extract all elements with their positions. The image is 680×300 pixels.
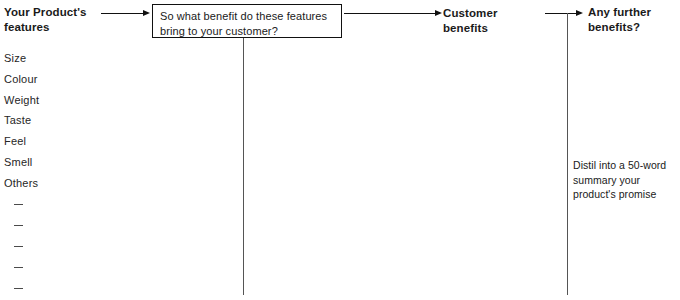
worksheet-diagram: Your Product's features Size Colour Weig… — [0, 0, 680, 300]
list-item: Others — [4, 173, 124, 194]
arrow-right-icon — [143, 10, 150, 16]
blank-entry-line[interactable] — [4, 215, 124, 236]
list-item: Size — [4, 48, 124, 69]
blank-entry-line[interactable] — [4, 257, 124, 278]
connector-question-to-customer-benefits — [344, 13, 436, 14]
list-item: Colour — [4, 69, 124, 90]
list-item: Feel — [4, 131, 124, 152]
dash-icon — [14, 204, 23, 205]
blank-entry-line[interactable] — [4, 194, 124, 215]
question-box-text: So what benefit do these features bring … — [160, 9, 336, 38]
list-item: Weight — [4, 90, 124, 111]
arrow-right-icon — [576, 10, 583, 16]
list-item: Taste — [4, 110, 124, 131]
column-divider-right — [567, 13, 568, 295]
product-features-heading: Your Product's features — [4, 5, 99, 35]
dash-icon — [14, 225, 23, 226]
column-divider-center — [243, 38, 244, 295]
question-box: So what benefit do these features bring … — [152, 4, 342, 38]
list-item: Smell — [4, 152, 124, 173]
product-features-list: Size Colour Weight Taste Feel Smell Othe… — [4, 48, 124, 299]
customer-benefits-heading: Customer benefits — [443, 6, 543, 36]
dash-icon — [14, 267, 23, 268]
any-further-benefits-heading: Any further benefits? — [588, 5, 672, 35]
dash-icon — [14, 246, 23, 247]
distil-summary-note: Distil into a 50-word summary your produ… — [573, 158, 677, 202]
arrow-right-icon — [435, 10, 442, 16]
blank-entry-line[interactable] — [4, 278, 124, 299]
connector-features-to-question — [101, 13, 144, 14]
connector-customer-benefits-to-any-further — [545, 13, 577, 14]
blank-entry-line[interactable] — [4, 236, 124, 257]
dash-icon — [14, 288, 23, 289]
